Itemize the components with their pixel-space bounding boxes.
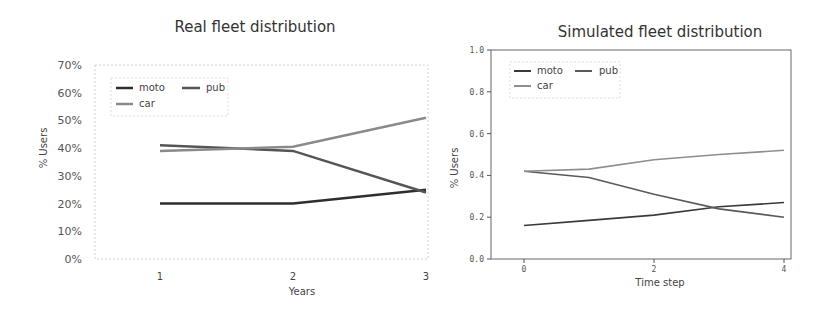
y-tick-label: 0.0	[470, 255, 485, 264]
right-series-lines	[524, 150, 784, 225]
left-series-lines	[160, 118, 426, 204]
left-x-axis-label: Years	[288, 286, 315, 297]
legend-car-label: car	[139, 98, 156, 109]
right-chart-title: Simulated fleet distribution	[558, 23, 763, 41]
y-tick-label: 50%	[58, 114, 82, 127]
y-tick-label: 70%	[58, 59, 82, 72]
y-tick-label: 10%	[58, 225, 82, 238]
x-tick-label: 4	[782, 265, 787, 274]
right-y-axis-label: % Users	[449, 148, 460, 189]
x-tick-label: 0	[522, 265, 527, 274]
x-tick-label: 1	[157, 271, 163, 282]
right-x-axis-label: Time step	[634, 277, 684, 288]
series-line-moto	[524, 203, 784, 226]
y-tick-label: 30%	[58, 170, 82, 183]
right-legend: moto pub car	[510, 62, 620, 98]
y-tick-label: 0.8	[470, 88, 485, 97]
left-chart: Real fleet distribution 0%10%20%30%40%50…	[38, 18, 429, 297]
y-tick-label: 20%	[58, 198, 82, 211]
x-tick-label: 2	[290, 271, 296, 282]
left-legend: moto pub car	[111, 78, 228, 116]
series-line-pub	[524, 171, 784, 217]
y-tick-label: 0.2	[470, 213, 485, 222]
right-y-axis-ticks: 0.00.20.40.60.81.0	[470, 46, 491, 264]
right-x-axis-ticks: 024	[522, 259, 787, 274]
legend-car-label: car	[537, 80, 554, 91]
left-y-axis-label: % Users	[38, 128, 49, 169]
y-tick-label: 40%	[58, 142, 82, 155]
series-line-pub	[160, 145, 426, 192]
legend-pub-label: pub	[206, 82, 225, 93]
y-tick-label: 1.0	[470, 46, 485, 55]
y-tick-label: 0.4	[470, 171, 485, 180]
y-tick-label: 0%	[65, 253, 82, 266]
left-x-axis-ticks: 123	[157, 271, 429, 282]
figure: Real fleet distribution 0%10%20%30%40%50…	[0, 0, 828, 311]
y-tick-label: 0.6	[470, 130, 485, 139]
legend-pub-label: pub	[599, 65, 618, 76]
legend-moto-label: moto	[139, 82, 165, 93]
y-tick-label: 60%	[58, 87, 82, 100]
series-line-car	[524, 150, 784, 171]
x-tick-label: 3	[423, 271, 429, 282]
x-tick-label: 2	[652, 265, 657, 274]
left-chart-title: Real fleet distribution	[174, 18, 335, 36]
right-chart: Simulated fleet distribution 0.00.20.40.…	[449, 23, 791, 288]
series-line-moto	[160, 190, 426, 204]
legend-moto-label: moto	[537, 65, 563, 76]
left-y-axis-ticks: 0%10%20%30%40%50%60%70%	[58, 59, 82, 266]
